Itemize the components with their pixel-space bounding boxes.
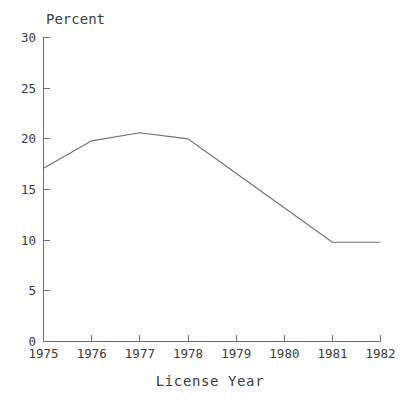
y-axis-title: Percent <box>46 11 105 27</box>
x-tick-label-1975: 1975 <box>28 346 58 361</box>
y-ticks-group <box>43 38 50 342</box>
y-tick-label-10: 10 <box>21 233 36 248</box>
x-ticks-group <box>44 335 381 341</box>
axes-group <box>43 37 381 342</box>
x-tick-label-1979: 1979 <box>221 346 251 361</box>
x-tick-label-1980: 1980 <box>269 346 299 361</box>
x-tick-label-1977: 1977 <box>125 346 155 361</box>
y-tick-label-5: 5 <box>28 283 36 298</box>
x-tick-label-1982: 1982 <box>365 346 395 361</box>
x-axis-title: License Year <box>156 373 264 389</box>
y-tick-label-25: 25 <box>21 81 36 96</box>
y-tick-label-20: 20 <box>21 131 36 146</box>
chart-figure: Percent 0 5 10 15 20 25 30 <box>0 0 404 405</box>
y-tick-label-30: 30 <box>21 30 36 45</box>
line-chart-canvas: Percent 0 5 10 15 20 25 30 <box>0 0 404 405</box>
x-tick-label-1981: 1981 <box>318 346 348 361</box>
data-series-line <box>44 133 381 242</box>
x-tick-label-1976: 1976 <box>77 346 107 361</box>
x-tick-labels-group: 1975 1976 1977 1978 1979 1980 1981 1982 <box>28 346 395 361</box>
x-tick-label-1978: 1978 <box>173 346 203 361</box>
y-tick-labels-group: 0 5 10 15 20 25 30 <box>21 30 36 349</box>
y-tick-label-15: 15 <box>21 182 36 197</box>
